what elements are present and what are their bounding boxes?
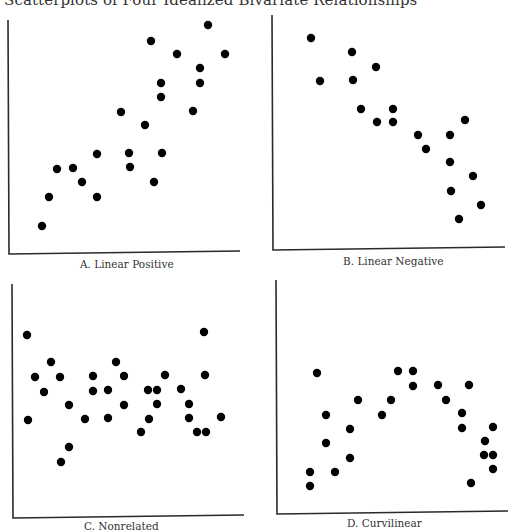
data-point [455,215,463,223]
data-point [349,76,357,84]
data-point [322,439,330,447]
data-point [489,423,497,431]
data-point [65,401,73,409]
data-point [120,401,128,409]
data-point [196,64,204,72]
data-point [372,63,380,71]
panel-d-curvilinear [276,280,508,514]
data-point [201,371,209,379]
caption-c: C. Nonrelated [84,520,159,532]
data-point [469,172,477,180]
data-point [458,409,466,417]
data-point [204,21,212,29]
data-point [147,37,155,45]
data-point [157,79,165,87]
data-point [200,328,208,336]
data-point [65,443,73,451]
data-point [173,50,181,58]
caption-a: A. Linear Positive [80,258,174,270]
data-point [313,369,321,377]
data-point [112,358,120,366]
data-point [465,381,473,389]
data-point [57,458,65,466]
data-point [104,414,112,422]
data-point [144,386,152,394]
data-point [458,424,466,432]
data-point [348,48,356,56]
data-point [40,388,48,396]
data-point [193,428,201,436]
data-point [185,414,193,422]
data-point [150,178,158,186]
caption-b: B. Linear Negative [343,255,443,267]
data-point [373,118,381,126]
data-point [389,105,397,113]
data-point [307,34,315,42]
data-point [126,163,134,171]
axes [12,284,244,518]
data-point [141,121,149,129]
data-point [38,222,46,230]
data-point [221,50,229,58]
data-point [153,386,161,394]
data-point [422,145,430,153]
data-point [306,468,314,476]
data-point [489,451,497,459]
data-point [442,396,450,404]
data-point [189,107,197,115]
data-point [177,385,185,393]
data-point [346,425,354,433]
data-point [316,77,324,85]
data-point [480,451,488,459]
data-point [53,165,61,173]
data-point [414,131,422,139]
data-point [446,131,454,139]
data-point [394,367,402,375]
data-point [93,150,101,158]
data-point [31,373,39,381]
data-point [125,149,133,157]
data-point [489,465,497,473]
data-point [89,372,97,380]
panel-c-nonrelated [12,284,244,518]
data-point [78,178,86,186]
axes [272,15,505,250]
data-point [23,331,31,339]
data-point [217,413,225,421]
data-point [446,158,454,166]
data-point [409,382,417,390]
data-point [196,79,204,87]
data-point [158,149,166,157]
data-point [153,400,161,408]
data-point [24,416,32,424]
data-point [47,358,55,366]
data-point [477,201,485,209]
data-point [56,373,64,381]
panel-a-linear-positive [8,20,240,254]
data-point [409,367,417,375]
data-point [93,193,101,201]
data-point [137,428,145,436]
data-point [346,454,354,462]
data-point [185,400,193,408]
data-point [81,415,89,423]
data-point [145,415,153,423]
data-point [202,428,210,436]
data-point [354,396,362,404]
data-point [69,164,77,172]
panel-b-linear-negative [272,15,505,250]
data-point [378,411,386,419]
data-point [104,386,112,394]
data-point [331,468,339,476]
data-point [387,396,395,404]
data-point [120,372,128,380]
data-point [161,371,169,379]
caption-d: D. Curvilinear [347,517,422,529]
data-point [467,479,475,487]
data-point [89,387,97,395]
data-point [447,187,455,195]
data-point [434,381,442,389]
data-point [117,108,125,116]
axes [8,20,240,254]
data-point [322,411,330,419]
